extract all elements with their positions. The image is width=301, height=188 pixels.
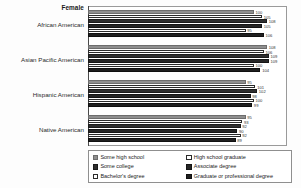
bar-some-high-school <box>88 10 254 14</box>
bar-value-label: 99 <box>253 103 259 108</box>
bar-row: 95 <box>88 29 287 33</box>
bar-row: 89 <box>88 138 287 142</box>
bar-groups: African American10010510810595106Asian P… <box>88 6 287 146</box>
bar-group: African American10010510810595106 <box>88 6 287 41</box>
bar-associate-degree <box>88 59 269 63</box>
legend-item[interactable]: Some college <box>91 164 184 170</box>
bar-some-college <box>88 124 241 128</box>
bar-graduate-or-professional-degree <box>88 68 260 72</box>
bar-row: 106 <box>88 33 287 37</box>
bar-bachelor-s-degree <box>88 29 246 33</box>
bar-bachelor-s-degree <box>88 64 254 68</box>
bar-graduate-or-professional-degree <box>88 103 252 107</box>
bar-bachelor-s-degree <box>88 99 254 103</box>
legend-label: High school graduate <box>194 155 246 161</box>
legend-item[interactable]: Some high school <box>91 155 184 161</box>
bar-row: 105 <box>88 24 287 28</box>
legend-swatch-icon <box>186 164 191 169</box>
bar-some-college <box>88 19 267 23</box>
bar-high-school-graduate <box>88 85 255 89</box>
chart-legend: Some high schoolHigh school graduateSome… <box>88 150 292 183</box>
bar-some-high-school <box>88 45 267 49</box>
bar-group: Asian Pacific American108106109109100104 <box>88 41 287 76</box>
bar-row: 100 <box>88 10 287 14</box>
bar-some-college <box>88 54 269 58</box>
legend-item[interactable]: Bachelor's degree <box>91 174 184 180</box>
bar-high-school-graduate <box>88 120 242 124</box>
bar-associate-degree <box>88 24 262 28</box>
bar-some-high-school <box>88 115 246 119</box>
bar-associate-degree <box>88 129 237 133</box>
bar-row: 108 <box>88 45 287 49</box>
group-label-asian-pacific-american: Asian Pacific American <box>21 55 84 62</box>
bar-some-college <box>88 89 257 93</box>
bar-row: 95 <box>88 115 287 119</box>
bar-value-label: 89 <box>236 138 242 143</box>
group-label-hispanic-american: Hispanic American <box>33 90 84 97</box>
legend-item[interactable]: Associate degree <box>184 164 289 170</box>
bar-bachelor-s-degree <box>88 134 241 138</box>
bar-row: 102 <box>88 89 287 93</box>
bar-high-school-graduate <box>88 50 264 54</box>
bar-row: 108 <box>88 19 287 23</box>
legend-swatch-icon <box>93 174 98 179</box>
bar-high-school-graduate <box>88 15 262 19</box>
bar-group: Native American959392909289 <box>88 111 287 146</box>
legend-grid: Some high schoolHigh school graduateSome… <box>91 153 289 182</box>
legend-label: Graduate or professional degree <box>194 174 273 180</box>
bar-row: 104 <box>88 68 287 72</box>
chart-title: Female <box>0 4 84 11</box>
bar-row: 93 <box>88 120 287 124</box>
bar-value-label: 104 <box>261 68 269 73</box>
bar-graduate-or-professional-degree <box>88 138 236 142</box>
bar-row: 106 <box>88 50 287 54</box>
legend-item[interactable]: High school graduate <box>184 155 289 161</box>
legend-label: Bachelor's degree <box>100 174 144 180</box>
bar-row: 92 <box>88 134 287 138</box>
group-label-native-american: Native American <box>39 125 84 132</box>
bar-group: Hispanic American951011029810099 <box>88 76 287 111</box>
bar-row: 109 <box>88 54 287 58</box>
legend-swatch-icon <box>93 155 98 160</box>
bar-row: 92 <box>88 124 287 128</box>
legend-swatch-icon <box>186 155 191 160</box>
legend-label: Some high school <box>100 155 144 161</box>
legend-swatch-icon <box>93 164 98 169</box>
group-label-african-american: African American <box>37 20 84 27</box>
legend-swatch-icon <box>186 174 191 179</box>
chart-container: Female African American10010510810595106… <box>0 0 301 188</box>
bar-row: 105 <box>88 15 287 19</box>
bar-associate-degree <box>88 94 251 98</box>
bar-row: 100 <box>88 64 287 68</box>
bar-value-label: 106 <box>264 33 272 38</box>
legend-item[interactable]: Graduate or professional degree <box>184 174 289 180</box>
legend-label: Associate degree <box>194 164 237 170</box>
bar-some-high-school <box>88 80 246 84</box>
legend-label: Some college <box>100 164 133 170</box>
bar-row: 90 <box>88 129 287 133</box>
bar-graduate-or-professional-degree <box>88 33 264 37</box>
bar-row: 99 <box>88 103 287 107</box>
